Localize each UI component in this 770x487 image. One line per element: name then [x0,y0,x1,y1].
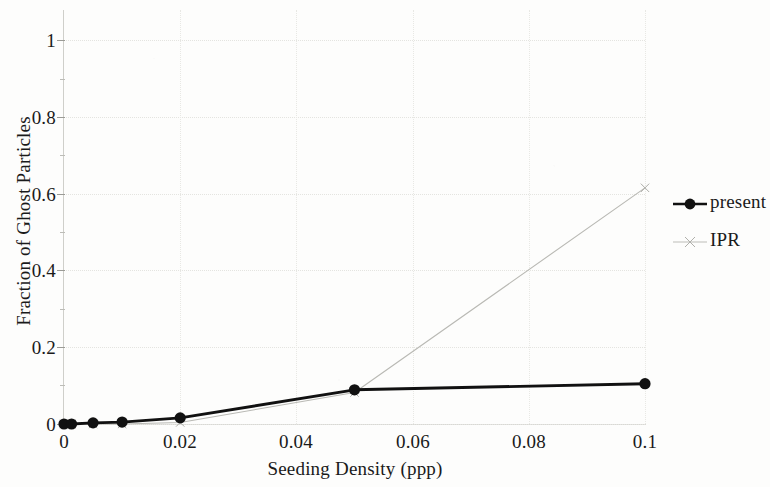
y-tick-label-0: 0 [46,415,56,434]
x-tick-label-0: 0 [59,432,69,451]
x-axis-line [64,424,646,425]
legend-entry-ipr: IPR [672,228,770,266]
y-tick-0 [57,424,65,425]
y-tick-0_4 [57,270,65,271]
legend-label-ipr: IPR [710,230,740,250]
y-tick-0_6 [57,194,65,195]
y-axis-title: Fraction of Ghost Particles [13,56,35,386]
y-tick-0_1 [60,385,65,386]
x-tick-label-0_1: 0.1 [633,432,657,451]
y-axis-line [63,10,64,424]
x-tick-label-0_06: 0.06 [396,432,430,451]
x-tick-label-0_04: 0.04 [279,432,313,451]
legend-marker-filled-circle-icon [672,196,708,212]
gridline-y-0_2 [64,347,645,348]
gridline-x-0_04 [296,10,297,424]
x-tick-label-0_08: 0.08 [512,432,546,451]
y-tick-label-0_4: 0.4 [32,261,56,280]
y-tick-0_5 [60,232,65,233]
x-tick-label-0_02: 0.02 [163,432,197,451]
gridline-y-0_4 [64,270,645,271]
y-tick-0_9 [60,79,65,80]
chart-figure: 1 0.8 0.6 0.4 0.2 0 0 0.02 0.04 0.06 0.0… [0,0,770,487]
gridline-x-0_08 [529,10,530,424]
legend-label-present: present [710,192,766,212]
y-tick-label-0_8: 0.8 [32,108,56,127]
legend: present IPR [672,190,770,266]
legend-entry-present: present [672,190,770,228]
gridline-y-1 [64,40,645,41]
y-tick-label-0_2: 0.2 [32,338,56,357]
y-tick-label-0_6: 0.6 [32,185,56,204]
x-axis-title: Seeding Density (ppp) [0,458,710,480]
gridline-x-0_1 [645,10,646,424]
legend-marker-x-icon [672,234,708,250]
y-tick-0_2 [57,347,65,348]
gridline-x-0_02 [180,10,181,424]
gridline-x-0_06 [413,10,414,424]
y-tick-1 [57,40,65,41]
gridline-y-0_8 [64,117,645,118]
y-tick-label-1: 1 [46,31,56,50]
y-tick-0_3 [60,309,65,310]
y-tick-0_8 [57,117,65,118]
y-tick-0_7 [60,155,65,156]
gridline-y-0_6 [64,194,645,195]
plot-area [64,10,645,424]
